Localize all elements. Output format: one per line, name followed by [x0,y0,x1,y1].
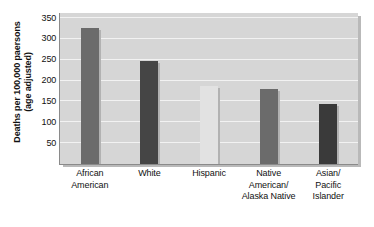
x-axis-category-label-line: American [60,180,120,192]
y-axis-line [59,13,60,165]
y-axis-title-line-1: Deaths per 100,000 paersons [12,2,23,162]
y-axis-tick-label: 150 [26,97,56,106]
x-axis-category-label-line: Native [239,168,299,180]
gridline [60,80,358,81]
x-axis-category-label-line: White [120,168,180,180]
y-axis-tick-label: 300 [26,34,56,43]
gridline [60,17,358,18]
y-axis-tick-label: 50 [26,139,56,148]
x-axis-category-label: Asian/PacificIslander [298,168,358,203]
bar [200,86,218,164]
y-axis-tick-label: 350 [26,14,56,23]
y-axis-tick-labels: 35030025020015010050 [26,0,56,227]
x-axis-category-labels: AfricanAmericanWhiteHispanicNativeAmeric… [60,168,358,226]
x-axis-category-label-line: Islander [298,191,358,203]
x-axis-line [59,164,358,165]
gridline [60,38,358,39]
y-axis-tick-label: 250 [26,55,56,64]
x-axis-category-label-line: Asian/ [298,168,358,180]
x-axis-category-label: White [120,168,180,180]
x-axis-category-label: Hispanic [179,168,239,180]
bar [260,89,278,164]
x-axis-category-label: NativeAmerican/Alaska Native [239,168,299,203]
x-axis-category-label-line: Pacific [298,180,358,192]
bar [81,28,99,164]
y-axis-tick-label: 100 [26,118,56,127]
bar-chart: Deaths per 100,000 paersons (age adjuste… [0,0,374,227]
y-axis-tick-label: 200 [26,76,56,85]
x-axis-category-label-line: Alaska Native [239,191,299,203]
x-axis-category-label-line: African [60,168,120,180]
x-axis-category-label-line: Hispanic [179,168,239,180]
x-axis-category-label: AfricanAmerican [60,168,120,191]
x-axis-category-label-line: American/ [239,180,299,192]
bar [319,104,337,164]
gridline [60,59,358,60]
bar [140,61,158,164]
plot-area [60,13,358,164]
